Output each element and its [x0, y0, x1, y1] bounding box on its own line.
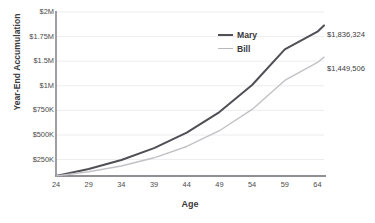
- legend-swatch-icon-mary: [218, 34, 233, 36]
- x-tick-label: 44: [174, 180, 200, 189]
- end-value-label-mary: $1,836,324: [327, 30, 365, 39]
- x-tick-label: 24: [43, 180, 69, 189]
- x-axis-title: Age: [55, 199, 325, 209]
- legend-label-mary: Mary: [237, 30, 257, 40]
- y-tick-label: $1.75M: [10, 33, 54, 41]
- plot-area: [0, 0, 375, 223]
- chart-legend: Mary Bill: [218, 28, 288, 56]
- x-tick-label: 59: [272, 180, 298, 189]
- x-tick-label: 49: [206, 180, 232, 189]
- x-tick-label: 29: [76, 180, 102, 189]
- x-tick-label: 54: [239, 180, 265, 189]
- x-tick-label: 39: [141, 180, 167, 189]
- y-axis-tick-labels: $2M$1.75M$1.5M$1M$750K$500K$250K: [10, 0, 54, 223]
- legend-swatch-icon-bill: [218, 48, 233, 49]
- x-tick-label: 34: [108, 180, 134, 189]
- legend-item-bill[interactable]: Bill: [218, 42, 288, 55]
- y-tick-label: $1.5M: [10, 57, 54, 65]
- y-tick-label: $2M: [10, 8, 54, 16]
- y-tick-label: $1M: [10, 82, 54, 90]
- y-tick-label: $500K: [10, 131, 54, 139]
- legend-item-mary[interactable]: Mary: [218, 28, 288, 41]
- line-chart: Year-End Accumulation $2M$1.75M$1.5M$1M$…: [0, 0, 375, 223]
- y-tick-label: $750K: [10, 106, 54, 114]
- legend-label-bill: Bill: [237, 44, 250, 54]
- end-value-label-bill: $1,449,506: [327, 64, 365, 73]
- x-tick-label: 64: [304, 180, 330, 189]
- series-line-bill: [56, 57, 324, 176]
- y-tick-label: $250K: [10, 156, 54, 164]
